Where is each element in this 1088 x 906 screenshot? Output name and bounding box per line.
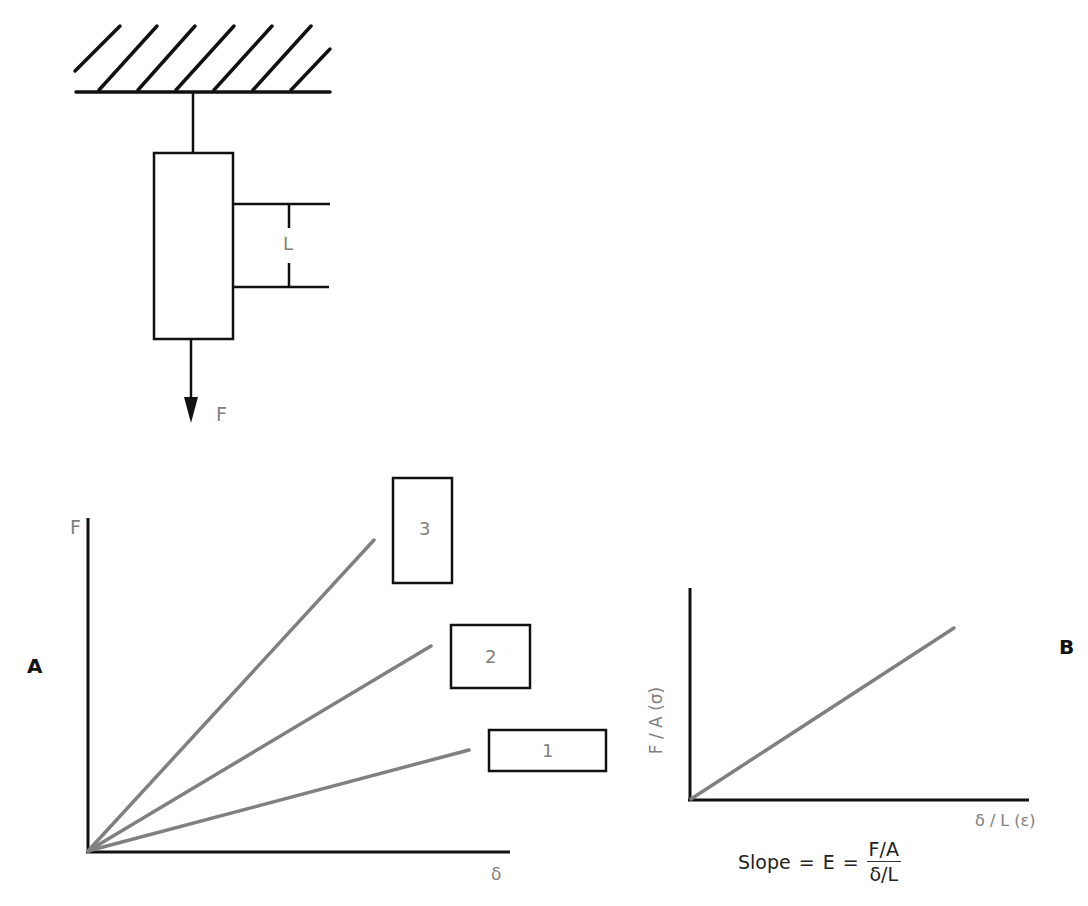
formula-equals-2: =: [843, 851, 859, 873]
gauge-length-dimension: [233, 204, 330, 287]
slope-formula: Slope = E = F/A δ/L: [738, 840, 901, 884]
line-specimen-1: [88, 750, 469, 851]
force-label: F: [216, 405, 227, 424]
formula-numerator: F/A: [867, 840, 901, 862]
panel-a-x-axis-label: δ: [491, 866, 501, 883]
panel-a-label: A: [27, 656, 42, 676]
fixed-support-icon: [75, 26, 330, 92]
formula-denominator: δ/L: [869, 862, 898, 884]
formula-lhs: Slope: [738, 851, 791, 873]
formula-fraction: F/A δ/L: [867, 840, 901, 884]
panel-b-stress-strain-line: [691, 628, 954, 799]
specimen-1-label: 1: [542, 742, 553, 760]
panel-b-y-axis-label: F / A (σ): [648, 671, 665, 771]
specimen-3-label: 3: [419, 520, 430, 538]
panel-a-y-axis-label: F: [70, 518, 81, 537]
formula-equals-1: =: [799, 851, 815, 873]
specimen-2-label: 2: [485, 648, 496, 666]
panel-b-x-axis-label: δ / L (ε): [975, 813, 1035, 829]
formula-modulus: E: [823, 851, 835, 873]
line-specimen-2: [88, 646, 431, 851]
diagram-canvas: [0, 0, 1088, 906]
panel-a-lines: [88, 540, 469, 851]
force-arrow-icon: [184, 339, 198, 423]
length-label: L: [283, 235, 293, 253]
panel-b-label: B: [1059, 637, 1074, 657]
specimen-block: [154, 153, 233, 339]
line-specimen-3: [88, 540, 374, 851]
